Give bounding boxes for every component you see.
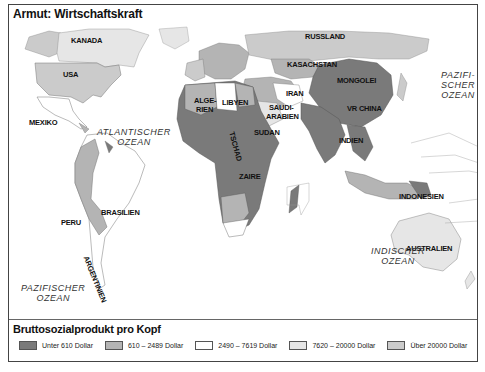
world-map: KANADAUSAMEXIKOBRASILIENPERURUSSLANDKASA… [9, 23, 477, 319]
country-label: LIBYEN [222, 99, 248, 107]
country-label: BRASILIEN [101, 209, 140, 217]
legend-label: Unter 610 Dollar [42, 342, 93, 349]
legend-items: Unter 610 Dollar 610 – 2489 Dollar 2490 … [19, 341, 467, 350]
country-label: SAUDI- [269, 104, 294, 112]
legend-item: Über 20000 Dollar [387, 341, 467, 350]
country-label: MONGOLEI [337, 77, 376, 85]
legend-label: 2490 – 7619 Dollar [218, 342, 277, 349]
ocean-label: PAZIFI- SCHER OZEAN [441, 70, 475, 100]
country-label: KANADA [71, 37, 102, 45]
country-label: INDIEN [339, 137, 363, 145]
map-shapes [9, 23, 477, 319]
country-label: IRAN [286, 90, 304, 98]
title-bar: Armut: Wirtschaftskraft [9, 5, 477, 24]
country-label: MEXIKO [29, 119, 57, 127]
country-label: INDONESIEN [399, 193, 444, 201]
country-label: ZAIRE [239, 173, 261, 181]
country-label: RUSSLAND [305, 33, 345, 41]
ocean-label: PAZIFISCHER OZEAN [21, 283, 85, 303]
country-label: PERU [61, 219, 81, 227]
legend-item: 7620 – 20000 Dollar [289, 341, 375, 350]
legend-label: Über 20000 Dollar [410, 342, 467, 349]
legend-swatch [387, 341, 405, 350]
country-label: VR CHINA [347, 105, 382, 113]
legend-item: 2490 – 7619 Dollar [195, 341, 277, 350]
legend-swatch [195, 341, 213, 350]
ocean-label: INDISCHER OZEAN [371, 246, 425, 266]
legend-swatch [19, 341, 37, 350]
page-title: Armut: Wirtschaftskraft [13, 7, 142, 21]
legend-swatch [105, 341, 123, 350]
ocean-label: ATLANTISCHER OZEAN [97, 127, 171, 147]
map-frame: Armut: Wirtschaftskraft [8, 4, 478, 362]
legend-item: Unter 610 Dollar [19, 341, 93, 350]
legend-title: Bruttosozialprodukt pro Kopf [13, 323, 161, 335]
country-label: ALGE- [194, 97, 216, 105]
legend-label: 7620 – 20000 Dollar [312, 342, 375, 349]
country-label: USA [63, 71, 78, 79]
country-label: ARABIEN [266, 113, 299, 121]
country-label: KASACHSTAN [287, 61, 337, 69]
country-label: SUDAN [254, 129, 280, 137]
legend-item: 610 – 2489 Dollar [105, 341, 183, 350]
legend: Bruttosozialprodukt pro Kopf Unter 610 D… [9, 319, 477, 361]
legend-label: 610 – 2489 Dollar [128, 342, 183, 349]
legend-swatch [289, 341, 307, 350]
country-label: RIEN [196, 106, 213, 114]
